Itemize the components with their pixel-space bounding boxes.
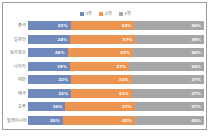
bar-value-label: 34% bbox=[191, 64, 201, 69]
bar-value-label: 31% bbox=[119, 77, 129, 82]
bar-segment-series-1[interactable]: 20% bbox=[28, 48, 68, 57]
chart-legend: 1위2위3위 bbox=[7, 9, 204, 18]
stacked-bar: 20%33%36% bbox=[28, 48, 204, 57]
bar-segment-series-3[interactable]: 34% bbox=[129, 62, 204, 71]
bar-segment-series-1[interactable]: 22% bbox=[28, 75, 71, 84]
bar-value-label: 37% bbox=[123, 37, 133, 42]
chart-frame: 1위2위3위 중국22%33%36%일본인24%37%39%싱가포르20%33%… bbox=[2, 2, 207, 130]
bar-value-label: 37% bbox=[122, 104, 132, 109]
bar-segment-series-2[interactable]: 37% bbox=[65, 102, 134, 111]
stacked-bar: 22%31%37% bbox=[28, 75, 204, 84]
bar-value-label: 33% bbox=[122, 23, 132, 28]
legend-item-2[interactable]: 2위 bbox=[99, 11, 111, 16]
legend-item-label: 3위 bbox=[124, 11, 131, 16]
bar-value-label: 37% bbox=[191, 77, 201, 82]
bar-value-label: 36% bbox=[191, 50, 201, 55]
bar-segment-series-1[interactable]: 20% bbox=[28, 116, 63, 125]
chart-row: 일본인24%37%39% bbox=[7, 33, 204, 47]
bar-value-label: 22% bbox=[58, 91, 68, 96]
bar-value-label: 19% bbox=[57, 64, 67, 69]
bar-segment-series-3[interactable]: 37% bbox=[135, 102, 204, 111]
bar-segment-series-3[interactable]: 36% bbox=[133, 48, 204, 57]
bar-segment-series-3[interactable]: 36% bbox=[134, 21, 204, 30]
category-label: 나이지 bbox=[7, 64, 28, 69]
category-label: 말레이시아 bbox=[7, 118, 28, 123]
chart-row: 나이지19%27%34% bbox=[7, 60, 204, 74]
legend-item-3[interactable]: 3위 bbox=[119, 11, 131, 16]
bar-segment-series-2[interactable]: 31% bbox=[71, 75, 132, 84]
bar-value-label: 20% bbox=[53, 104, 63, 109]
chart-plot-area: 중국22%33%36%일본인24%37%39%싱가포르20%33%36%나이지1… bbox=[7, 19, 204, 127]
bar-value-label: 39% bbox=[191, 37, 201, 42]
chart-row: 싱가포르20%33%36% bbox=[7, 46, 204, 60]
bar-value-label: 37% bbox=[191, 91, 201, 96]
bar-segment-series-3[interactable]: 37% bbox=[132, 89, 204, 98]
bar-segment-series-1[interactable]: 22% bbox=[28, 21, 71, 30]
bar-segment-series-2[interactable]: 31% bbox=[71, 89, 132, 98]
bar-value-label: 37% bbox=[191, 104, 201, 109]
bar-value-label: 31% bbox=[119, 91, 129, 96]
legend-item-label: 1위 bbox=[86, 11, 93, 16]
bar-segment-series-2[interactable]: 37% bbox=[70, 35, 135, 44]
bar-value-label: 22% bbox=[58, 77, 68, 82]
bar-value-label: 36% bbox=[191, 23, 201, 28]
bar-value-label: 24% bbox=[57, 37, 67, 42]
bar-segment-series-3[interactable]: 37% bbox=[132, 75, 204, 84]
category-label: 호주 bbox=[7, 104, 28, 109]
bar-value-label: 20% bbox=[55, 50, 65, 55]
bar-segment-series-2[interactable]: 33% bbox=[71, 21, 135, 30]
chart-row: 호주20%37%37% bbox=[7, 100, 204, 114]
bar-segment-series-2[interactable]: 27% bbox=[70, 62, 129, 71]
category-label: 태국 bbox=[7, 91, 28, 96]
chart-row: 태국22%31%37% bbox=[7, 87, 204, 101]
stacked-bar: 22%33%36% bbox=[28, 21, 204, 30]
stacked-bar: 20%37%37% bbox=[28, 102, 204, 111]
bar-value-label: 33% bbox=[120, 50, 130, 55]
legend-swatch-icon bbox=[119, 12, 123, 16]
bar-segment-series-1[interactable]: 22% bbox=[28, 89, 71, 98]
bar-value-label: 42% bbox=[122, 118, 132, 123]
stacked-bar: 22%31%37% bbox=[28, 89, 204, 98]
bar-segment-series-2[interactable]: 42% bbox=[63, 116, 135, 125]
bar-segment-series-1[interactable]: 20% bbox=[28, 102, 65, 111]
bar-segment-series-3[interactable]: 40% bbox=[135, 116, 204, 125]
bar-segment-series-1[interactable]: 19% bbox=[28, 62, 70, 71]
stacked-bar: 20%42%40% bbox=[28, 116, 204, 125]
bar-value-label: 22% bbox=[58, 23, 68, 28]
category-label: 일본인 bbox=[7, 37, 28, 42]
legend-swatch-icon bbox=[99, 12, 103, 16]
chart-row: 대만22%31%37% bbox=[7, 73, 204, 87]
legend-swatch-icon bbox=[80, 12, 84, 16]
legend-item-label: 2위 bbox=[105, 11, 112, 16]
category-label: 싱가포르 bbox=[7, 50, 28, 55]
bar-segment-series-1[interactable]: 24% bbox=[28, 35, 70, 44]
bar-segment-series-2[interactable]: 33% bbox=[68, 48, 133, 57]
legend-item-1[interactable]: 1위 bbox=[80, 11, 92, 16]
bar-value-label: 20% bbox=[50, 118, 60, 123]
stacked-bar: 19%27%34% bbox=[28, 62, 204, 71]
bar-value-label: 27% bbox=[116, 64, 126, 69]
chart-row: 말레이시아20%42%40% bbox=[7, 114, 204, 128]
category-label: 대만 bbox=[7, 77, 28, 82]
bar-value-label: 40% bbox=[191, 118, 201, 123]
bar-segment-series-3[interactable]: 39% bbox=[135, 35, 204, 44]
chart-canvas: 1위2위3위 중국22%33%36%일본인24%37%39%싱가포르20%33%… bbox=[7, 6, 204, 128]
category-label: 중국 bbox=[7, 23, 28, 28]
chart-row: 중국22%33%36% bbox=[7, 19, 204, 33]
stacked-bar: 24%37%39% bbox=[28, 35, 204, 44]
